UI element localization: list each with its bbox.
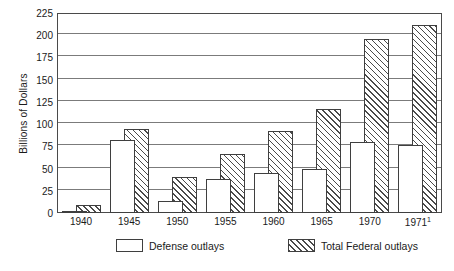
y-tick-label-50: 50 [27,163,53,174]
y-tick-label-225: 225 [27,8,53,19]
bar-group-1945 [110,13,149,213]
bar-defense-outlays [62,211,87,213]
legend-item-defense-outlays: Defense outlays [116,239,224,252]
bar-defense-outlays [398,145,423,213]
bars-layer [57,13,442,213]
y-tick-label-200: 200 [27,30,53,41]
bar-group-1965 [302,13,341,213]
legend-item-total-federal-outlays: Total Federal outlays [288,239,418,252]
x-tick-label-1965: 1965 [311,216,333,227]
hatched-square-swatch-icon [288,239,315,252]
x-tick-label-1950: 1950 [166,216,188,227]
legend-label-defense-outlays: Defense outlays [149,240,224,252]
bar-group-1971 [398,13,437,213]
x-tick-label-1960: 1960 [262,216,284,227]
bar-defense-outlays [110,140,135,213]
chart-legend: Defense outlays Total Federal outlays [57,239,442,257]
y-tick-label-125: 125 [27,96,53,107]
bar-defense-outlays [206,179,231,213]
bar-group-1970 [350,13,389,213]
y-axis-tick-labels: 0255075100125150175200225 [25,13,53,213]
bar-defense-outlays [158,201,183,213]
y-tick-label-0: 0 [27,208,53,219]
x-tick-label-1945: 1945 [118,216,140,227]
bar-defense-outlays [254,173,279,213]
bar-group-1955 [206,13,245,213]
x-tick-label-1955: 1955 [214,216,236,227]
open-square-swatch-icon [116,239,143,252]
bar-group-1940 [62,13,101,213]
bar-group-1960 [254,13,293,213]
bar-group-1950 [158,13,197,213]
y-tick-label-75: 75 [27,141,53,152]
y-tick-label-175: 175 [27,52,53,63]
bar-defense-outlays [350,142,375,213]
y-tick-label-25: 25 [27,185,53,196]
x-tick-label-1940: 1940 [70,216,92,227]
footnote-marker: 1 [427,216,431,223]
y-tick-label-150: 150 [27,74,53,85]
bar-defense-outlays [302,169,327,213]
legend-label-total-federal-outlays: Total Federal outlays [321,240,418,252]
bar-chart: Billions of Dollars 02550751001251501752… [0,0,454,271]
x-axis-tick-labels: 194019451950195519601965197019711 [57,216,442,232]
x-tick-label-1971: 19711 [405,216,431,228]
y-tick-label-100: 100 [27,119,53,130]
x-tick-label-1970: 1970 [359,216,381,227]
